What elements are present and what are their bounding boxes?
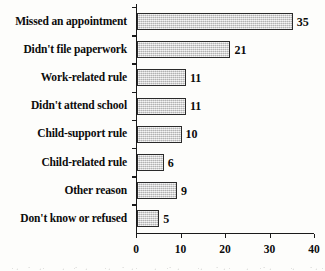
y-axis-tick (132, 63, 136, 64)
bar (137, 13, 293, 30)
x-axis-tick-label: 0 (133, 244, 139, 256)
bar-chart: Missed an appointmentDidn't file paperwo… (0, 0, 325, 271)
scan-artifact (0, 265, 325, 271)
bar (137, 126, 182, 143)
bar-value-label: 11 (190, 100, 201, 112)
y-axis-tick (132, 92, 136, 93)
y-axis-line (136, 4, 137, 234)
category-label: Didn't attend school (0, 100, 131, 112)
x-axis-tick-label: 20 (219, 244, 231, 256)
bar-value-label: 5 (163, 213, 169, 225)
category-label: Missed an appointment (0, 16, 131, 28)
bar-value-label: 21 (234, 44, 246, 56)
y-axis-tick (132, 120, 136, 121)
y-axis-tick (132, 148, 136, 149)
x-axis-tick-label: 40 (308, 244, 320, 256)
bar (137, 182, 177, 199)
bar (137, 210, 159, 227)
bar-value-label: 10 (186, 128, 198, 140)
x-axis-tick (181, 234, 182, 239)
bar-value-label: 35 (297, 16, 309, 28)
bar (137, 154, 164, 171)
x-axis-tick (136, 234, 137, 239)
category-label: Child-related rule (0, 157, 131, 169)
x-axis-tick-label: 30 (264, 244, 276, 256)
bar (137, 98, 186, 115)
bar-value-label: 6 (168, 157, 174, 169)
y-axis-tick (132, 204, 136, 205)
category-label: Don't know or refused (0, 213, 131, 225)
x-axis-tick (314, 234, 315, 239)
y-axis-tick (132, 7, 136, 8)
x-axis-tick-label: 10 (175, 244, 187, 256)
y-axis-tick (132, 35, 136, 36)
category-label: Didn't file paperwork (0, 44, 131, 56)
bar-value-label: 9 (181, 185, 187, 197)
category-label: Other reason (0, 185, 131, 197)
x-axis-tick (270, 234, 271, 239)
y-axis-tick (132, 176, 136, 177)
category-label: Child-support rule (0, 128, 131, 140)
bar-value-label: 11 (190, 72, 201, 84)
plot-area: 3521111110695 010203040 (136, 4, 314, 234)
category-label: Work-related rule (0, 72, 131, 84)
bar (137, 41, 230, 58)
bar (137, 69, 186, 86)
x-axis-tick (225, 234, 226, 239)
